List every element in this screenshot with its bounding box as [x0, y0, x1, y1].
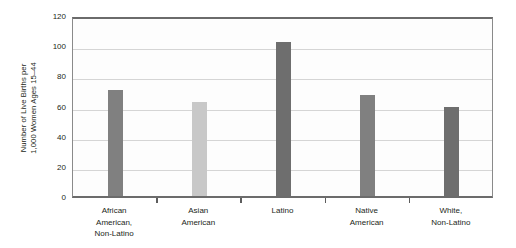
x-axis-category-label: AsianAmerican: [156, 205, 240, 228]
y-axis-title-line-1: Number of Live Births per: [19, 64, 30, 153]
x-axis-category-label-line: American: [325, 217, 409, 229]
x-axis-category-label-line: African: [72, 205, 156, 217]
x-axis-category-label-line: American,: [72, 217, 156, 229]
y-axis-tick-label: 0: [40, 194, 66, 202]
x-axis-tick-mark: [325, 198, 327, 203]
x-axis-category-label-line: Native: [325, 205, 409, 217]
y-axis-tick-label: 80: [40, 73, 66, 81]
bar: [360, 95, 375, 196]
x-axis-tick-mark: [240, 198, 242, 203]
x-axis-category-label-line: Non-Latino: [72, 228, 156, 240]
x-axis-category-label: AfricanAmerican,Non-Latino: [72, 205, 156, 240]
x-axis-tick-mark: [409, 198, 411, 203]
y-axis-tick-label: 20: [40, 164, 66, 172]
x-axis-category-label: White,Non-Latino: [409, 205, 493, 228]
y-axis-tick-label: 120: [40, 13, 66, 21]
x-axis-category-label: Latino: [240, 205, 324, 217]
x-axis-category-label-line: Latino: [240, 205, 324, 217]
plot-area: [72, 17, 493, 198]
y-axis-tick-label: 100: [40, 43, 66, 51]
y-axis-tick-label: 40: [40, 134, 66, 142]
bar: [444, 107, 459, 196]
bar-chart-figure: Number of Live Births per 1,000 Women Ag…: [0, 0, 516, 248]
bar: [108, 90, 123, 196]
y-axis-tick-label: 60: [40, 104, 66, 112]
x-axis-category-label-line: American: [156, 217, 240, 229]
x-axis-category-label: NativeAmerican: [325, 205, 409, 228]
bar: [276, 42, 291, 196]
x-axis-category-label-line: Non-Latino: [409, 217, 493, 229]
x-axis-tick-mark: [156, 198, 158, 203]
y-axis-title-line-2: 1,000 Women Ages 15–44: [29, 62, 40, 154]
bar: [192, 102, 207, 196]
x-axis-category-label-line: Asian: [156, 205, 240, 217]
x-axis-category-label-line: White,: [409, 205, 493, 217]
